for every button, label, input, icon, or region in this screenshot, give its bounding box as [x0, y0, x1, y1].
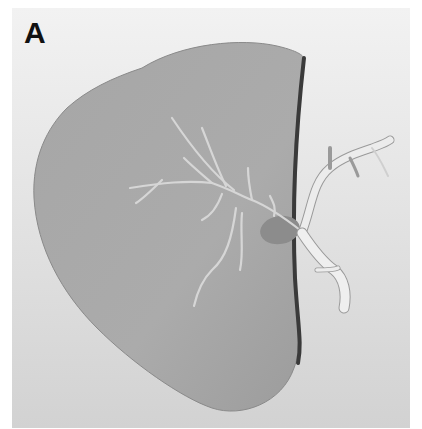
figure-frame: A [12, 8, 410, 428]
liver-rendering [12, 8, 410, 428]
panel-label: A [24, 18, 46, 48]
common-bile-duct [302, 140, 390, 308]
